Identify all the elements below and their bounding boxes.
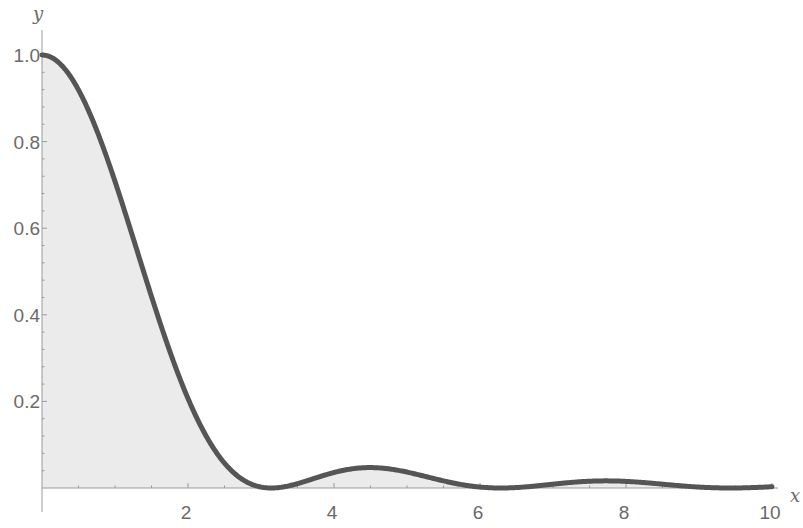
y-tick-label: 0.2 xyxy=(14,391,40,412)
x-tick-label: 2 xyxy=(181,502,192,523)
x-tick-label: 6 xyxy=(473,502,484,523)
y-tick-label: 1.0 xyxy=(14,45,40,66)
y-tick-label: 0.8 xyxy=(14,132,40,153)
y-tick-label: 0.4 xyxy=(14,305,41,326)
x-ticks: 246810 xyxy=(79,483,781,523)
chart: 246810 0.20.40.60.81.0 x y xyxy=(0,0,803,528)
y-axis-label: y xyxy=(32,3,44,24)
x-tick-label: 4 xyxy=(327,502,338,523)
x-tick-label: 10 xyxy=(759,502,780,523)
y-tick-label: 0.6 xyxy=(14,218,40,239)
x-axis-label: x xyxy=(790,485,800,506)
x-tick-label: 8 xyxy=(619,502,630,523)
area-fill xyxy=(42,55,772,488)
